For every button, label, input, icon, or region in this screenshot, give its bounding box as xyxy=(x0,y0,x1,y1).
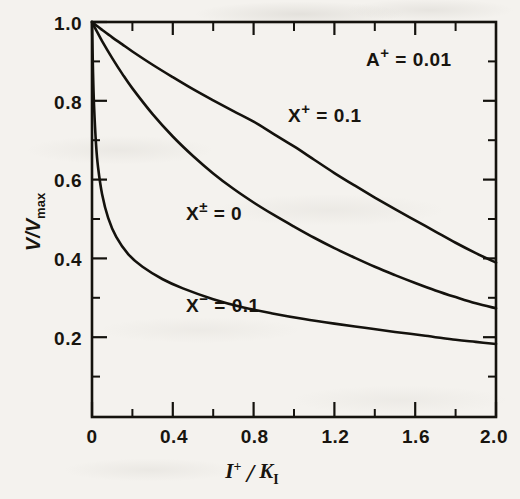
x-tick-label: 0.8 xyxy=(241,426,269,447)
curve-x-minus xyxy=(92,22,496,344)
x-tick-label: 0 xyxy=(86,426,97,447)
annot-a-sup: + xyxy=(380,44,389,61)
svg-text:X+ = 0.1: X+ = 0.1 xyxy=(288,100,362,126)
x-tick-label: 2.0 xyxy=(480,426,508,447)
annot-xpm-value: 0 xyxy=(231,203,242,224)
annot-xm-base: X xyxy=(186,295,199,316)
x-tick-labels: 0 0.4 0.8 1.2 1.6 2.0 xyxy=(86,426,508,447)
y-tick-label: 0.2 xyxy=(54,328,82,349)
annot-xp-base: X xyxy=(288,105,301,126)
chart-svg: 1.0 0.8 0.6 0.4 0.2 0 0.4 0.8 1.2 1.6 2.… xyxy=(0,0,520,499)
annot-xpm-eq: = xyxy=(214,203,226,224)
x-tick-label: 1.6 xyxy=(402,426,430,447)
y-tick-labels: 1.0 0.8 0.6 0.4 0.2 xyxy=(54,13,82,349)
curves-group xyxy=(92,22,496,344)
annot-a-base: A xyxy=(366,49,380,70)
x-tick-label: 0.4 xyxy=(160,426,188,447)
y-axis-title-sub: max xyxy=(33,192,48,219)
figure-panel: 1.0 0.8 0.6 0.4 0.2 0 0.4 0.8 1.2 1.6 2.… xyxy=(0,0,520,499)
x-axis-title-num-sup: + xyxy=(234,459,242,474)
annot-xpm-base: X xyxy=(186,203,199,224)
x-axis-top-ticks xyxy=(132,22,455,35)
annot-xp-value: 0.1 xyxy=(334,105,362,126)
y-axis-title: V/Vmax xyxy=(22,192,48,251)
y-tick-label: 1.0 xyxy=(54,13,82,34)
x-tick-label: 1.2 xyxy=(321,426,349,447)
annot-xp-sup: + xyxy=(301,100,310,117)
svg-text:I+ / KI: I+ / KI xyxy=(224,459,278,488)
annot-xpm-sup: ± xyxy=(199,198,208,215)
svg-text:A+ = 0.01: A+ = 0.01 xyxy=(366,44,452,70)
x-axis-title-den-sub: I xyxy=(273,472,278,487)
svg-text:V/Vmax: V/Vmax xyxy=(22,192,48,251)
plot-frame xyxy=(92,22,496,417)
x-axis-title: I+ / KI xyxy=(224,459,278,488)
y-axis-title-main: V/V xyxy=(22,217,44,251)
annot-xm-eq: = xyxy=(214,295,226,316)
annot-xp-eq: = xyxy=(316,105,328,126)
y-tick-label: 0.8 xyxy=(54,92,82,113)
y-tick-label: 0.4 xyxy=(54,249,82,270)
annotation-x-pm: X± = 0 xyxy=(186,198,242,224)
y-axis-right-ticks xyxy=(483,61,496,376)
annot-a-value: 0.01 xyxy=(413,49,452,70)
annotation-a-plus: A+ = 0.01 xyxy=(366,44,452,70)
y-tick-label: 0.6 xyxy=(54,170,82,191)
svg-text:X± = 0: X± = 0 xyxy=(186,198,242,224)
annotation-x-plus: X+ = 0.1 xyxy=(288,100,362,126)
annot-a-eq: = xyxy=(395,49,407,70)
